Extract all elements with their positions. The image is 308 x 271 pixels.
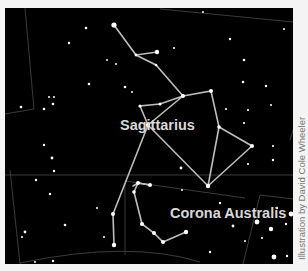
star-map: Sagittarius Corona Australis	[5, 8, 293, 264]
constellation-label-corona-australis: Corona Australis	[170, 205, 286, 221]
stars	[20, 11, 293, 263]
constellation-label-sagittarius: Sagittarius	[120, 117, 195, 133]
constellation-boundaries	[5, 8, 293, 264]
constellation-diagram	[5, 8, 293, 264]
illustration-credit: Illustration by David Cole Wheeler	[296, 117, 307, 260]
